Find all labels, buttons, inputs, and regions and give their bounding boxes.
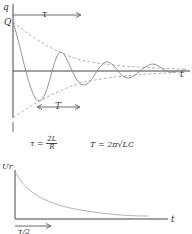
- q0-label: Q: [4, 18, 11, 27]
- tau-denominator: R: [46, 144, 57, 151]
- lower-envelope: [13, 72, 185, 118]
- upper-envelope: [13, 22, 185, 69]
- t-axis-label-bottom: t: [171, 215, 175, 224]
- period-label: T: [55, 102, 61, 111]
- tau-label: τ: [42, 10, 47, 19]
- damped-oscillation: [13, 22, 186, 101]
- q-axis-label: q: [3, 3, 9, 12]
- t-axis-label-top: t: [180, 70, 184, 79]
- tau-formula: τ = 2L R: [30, 136, 57, 151]
- tau-half-label: τ/2: [18, 228, 30, 234]
- tau-formula-lhs: τ =: [30, 139, 44, 148]
- period-formula: T = 2π√LC: [90, 140, 134, 149]
- diagram-canvas: [0, 0, 192, 234]
- tau-fraction: 2L R: [46, 136, 57, 151]
- ur-axis-label: Ur: [2, 163, 13, 171]
- ur-decay-curve: [16, 173, 148, 216]
